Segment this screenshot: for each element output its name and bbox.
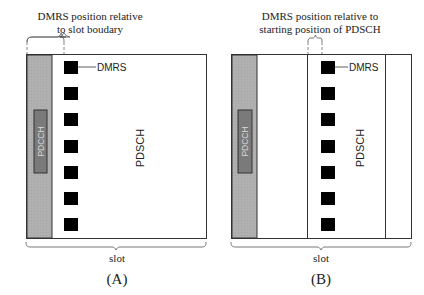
panel-a-dmrs-label: DMRS — [97, 62, 127, 73]
panel-b-pdcch-label: PDCCH — [240, 126, 250, 156]
panel-b-pdsch-label: PDSCH — [354, 129, 366, 168]
panel-b-caption: (B) — [311, 271, 331, 288]
panel-b-top-brace — [308, 35, 322, 42]
panel-b-slot-label: slot — [313, 252, 329, 264]
dmrs-symbol — [321, 166, 335, 179]
panel-a-brace-left — [27, 33, 61, 42]
panel-a-caption: (A) — [107, 271, 128, 288]
panel-a-annotation-line2: to slot boudary — [57, 23, 123, 35]
dmrs-symbol — [64, 218, 78, 231]
dmrs-symbol — [321, 113, 335, 126]
panel-b-slot-brace — [231, 242, 411, 250]
panel-a-slot-frame — [27, 55, 207, 239]
panel-b-dmrs-label: DMRS — [349, 62, 379, 73]
dmrs-symbol — [321, 192, 335, 205]
dmrs-symbol — [321, 61, 335, 74]
panel-a-brace-right — [60, 37, 64, 42]
panel-a-slot-label: slot — [109, 252, 125, 264]
dmrs-symbol — [64, 192, 78, 205]
panel-a-slot-brace — [26, 242, 206, 250]
dmrs-symbol — [321, 140, 335, 153]
panel-a-top-brace-curve — [27, 34, 70, 42]
panel-b-annotation-line2: starting position of PDSCH — [259, 23, 380, 35]
dmrs-symbol — [321, 87, 335, 100]
panel-a-annotation-line1: DMRS position relative — [37, 10, 142, 22]
dmrs-symbol — [64, 166, 78, 179]
dmrs-symbol — [321, 218, 335, 231]
dmrs-symbol — [64, 87, 78, 100]
panel-a-pdcch-label: PDCCH — [36, 126, 46, 156]
dmrs-position-diagram: DMRS position relative to slot boudary P… — [0, 0, 424, 295]
panel-a: DMRS position relative to slot boudary P… — [26, 10, 207, 288]
panel-b: DMRS position relative to starting posit… — [231, 10, 412, 288]
dmrs-symbol — [64, 61, 78, 74]
panel-a-pdsch-label: PDSCH — [134, 129, 146, 168]
panel-b-annotation-line1: DMRS position relative to — [262, 10, 379, 22]
dmrs-symbol — [64, 113, 78, 126]
dmrs-symbol — [64, 140, 78, 153]
